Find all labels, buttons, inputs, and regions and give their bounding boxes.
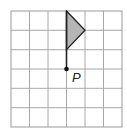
grid-diagram: P bbox=[0, 0, 127, 130]
point-p bbox=[64, 67, 69, 72]
point-p-label: P bbox=[72, 70, 81, 85]
